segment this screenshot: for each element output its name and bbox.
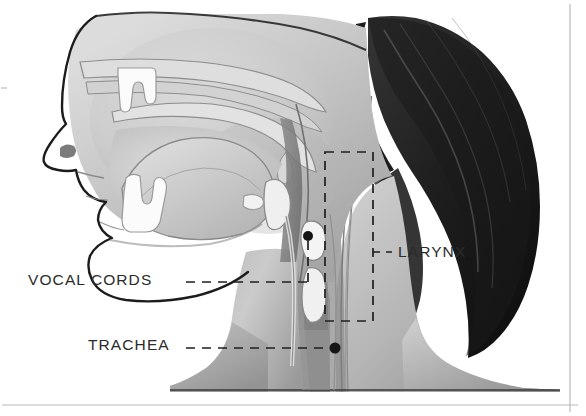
figure-canvas: VOCAL CORDS TRACHEA LARYNX (0, 0, 586, 416)
vocal-cords-marker-dot (303, 231, 313, 241)
label-vocal-cords: VOCAL CORDS (28, 272, 152, 288)
label-trachea: TRACHEA (88, 337, 170, 353)
trachea-marker-dot (330, 343, 341, 354)
oral-nasal-cavity (80, 59, 326, 282)
anatomy-illustration (0, 0, 586, 416)
label-larynx: LARYNX (398, 244, 466, 260)
